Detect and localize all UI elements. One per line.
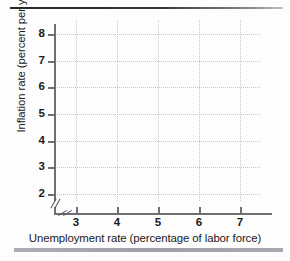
y-axis-tick xyxy=(48,87,55,89)
gridline-horizontal xyxy=(54,194,260,195)
y-axis-tick xyxy=(48,194,55,196)
x-axis-tick xyxy=(240,207,242,214)
x-axis-tick-label: 7 xyxy=(232,216,248,228)
y-axis-tick-label: 7 xyxy=(31,54,45,66)
gridline-vertical xyxy=(240,20,241,201)
x-axis-tick-label: 3 xyxy=(68,216,84,228)
x-axis-tick xyxy=(76,207,78,214)
gridline-horizontal xyxy=(54,87,260,88)
y-axis-title: Inflation rate (percent per year) xyxy=(15,0,27,146)
y-axis-tick xyxy=(48,61,55,63)
y-axis-tick-label: 4 xyxy=(31,134,45,146)
y-axis-tick-label: 6 xyxy=(31,80,45,92)
y-axis-tick-label: 2 xyxy=(31,187,45,199)
y-axis-title-container: Inflation rate (percent per year) xyxy=(15,0,31,146)
y-axis-tick-label: 8 xyxy=(31,27,45,39)
x-axis-title: Unemployment rate (percentage of labor f… xyxy=(0,232,290,244)
x-axis-tick-label: 5 xyxy=(150,216,166,228)
gridline-horizontal xyxy=(54,167,260,168)
gridline-horizontal xyxy=(54,141,260,142)
page-rule-top xyxy=(10,7,283,9)
y-axis-tick-label: 5 xyxy=(31,107,45,119)
gridline-horizontal xyxy=(54,114,260,115)
x-axis-tick xyxy=(158,207,160,214)
y-axis-tick xyxy=(48,34,55,36)
y-axis-tick-label: 3 xyxy=(31,160,45,172)
x-axis-tick xyxy=(199,207,201,214)
chart-figure: 8 7 6 5 4 3 2 3 4 5 6 7 Unemployment rat… xyxy=(0,0,290,261)
gridline-vertical xyxy=(158,20,159,201)
y-axis-tick xyxy=(48,114,55,116)
y-axis-tick xyxy=(48,141,55,143)
y-axis-line xyxy=(54,24,56,201)
gridline-vertical xyxy=(76,20,77,201)
page-rule-bottom xyxy=(14,248,283,252)
x-axis-tick-label: 6 xyxy=(191,216,207,228)
x-axis-tick-label: 4 xyxy=(109,216,125,228)
x-axis-tick xyxy=(117,207,119,214)
gridline-vertical xyxy=(117,20,118,201)
plot-area xyxy=(54,20,268,210)
gridline-horizontal xyxy=(54,61,260,62)
y-axis-tick xyxy=(48,167,55,169)
gridline-vertical xyxy=(199,20,200,201)
gridline-horizontal xyxy=(54,34,260,35)
